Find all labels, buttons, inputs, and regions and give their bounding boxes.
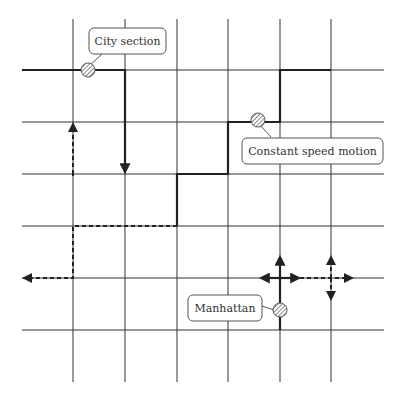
dashed-path [24,226,177,278]
manhattan-node [273,303,287,317]
manhattan-moves [261,257,352,330]
constant-speed-node [251,113,265,127]
manhattan-connector [262,306,274,310]
manhattan-label: Manhattan [194,302,255,315]
constant-speed-callout: Constant speed motion [242,138,383,164]
grid [22,19,384,382]
city-section-node [81,63,95,77]
city-section-label: City section [94,35,160,48]
manhattan-callout: Manhattan [188,295,262,321]
city-section-callout: City section [89,28,166,54]
city-grid-diagram: City section Constant speed motion Manha… [0,0,402,399]
constant-speed-label: Constant speed motion [248,145,377,158]
